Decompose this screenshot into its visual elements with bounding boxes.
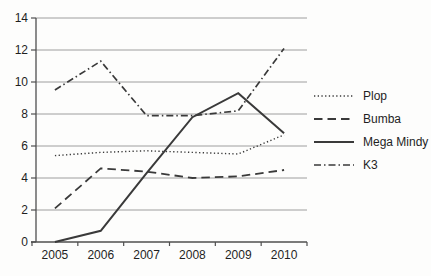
svg-text:8: 8 [21,107,28,121]
svg-text:2009: 2009 [225,248,252,262]
k3-line-sample [314,161,354,169]
x-axis-labels: 200520062007200820092010 [42,248,298,262]
svg-text:2005: 2005 [42,248,69,262]
y-axis-labels: 02468101214 [15,11,29,249]
svg-text:2010: 2010 [271,248,298,262]
svg-text:14: 14 [15,11,29,25]
svg-text:2008: 2008 [179,248,206,262]
chart-legend: Plop Bumba Mega Mindy K3 [314,84,428,176]
svg-text:4: 4 [21,171,28,185]
legend-item-plop: Plop [314,84,428,107]
legend-item-bumba: Bumba [314,107,428,130]
svg-text:0: 0 [21,235,28,249]
svg-text:2: 2 [21,203,28,217]
bumba-line-sample [314,115,354,123]
legend-item-mega-mindy: Mega Mindy [314,130,428,153]
mega-mindy-line-sample [314,138,354,146]
svg-text:2007: 2007 [133,248,160,262]
legend-label-plop: Plop [363,89,387,103]
legend-label-mega-mindy: Mega Mindy [363,135,428,149]
gridlines [36,18,307,210]
svg-text:12: 12 [15,43,29,57]
plop-line-sample [314,92,354,100]
axes [31,18,307,242]
svg-text:10: 10 [15,75,29,89]
legend-item-k3: K3 [314,153,428,176]
svg-text:6: 6 [21,139,28,153]
line-chart: 02468101214200520062007200820092010 Plop… [0,0,431,276]
legend-label-bumba: Bumba [363,112,401,126]
tick-marks [31,18,307,246]
series-line-bumba [55,168,284,208]
legend-label-k3: K3 [363,158,378,172]
svg-text:2006: 2006 [87,248,114,262]
